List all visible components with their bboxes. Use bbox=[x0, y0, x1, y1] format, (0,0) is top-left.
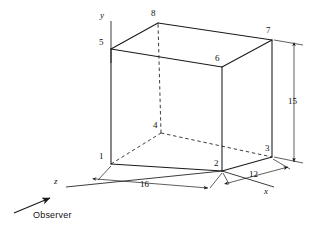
extension-line-16-left bbox=[98, 166, 111, 180]
hidden-edge-1-4 bbox=[111, 133, 161, 164]
edge-5-8 bbox=[111, 23, 158, 49]
dimension-label-depth: 12 bbox=[249, 170, 258, 179]
z-axis-label: z bbox=[54, 177, 58, 186]
edge-7-6 bbox=[222, 40, 272, 67]
vertex-label-3: 3 bbox=[265, 144, 270, 153]
vertex-label-8: 8 bbox=[151, 9, 156, 18]
vertex-label-4: 4 bbox=[153, 121, 158, 130]
vertex-label-6: 6 bbox=[215, 54, 220, 63]
vertex-label-1: 1 bbox=[99, 152, 104, 161]
vertex-label-7: 7 bbox=[266, 26, 271, 35]
dimension-label-height: 15 bbox=[288, 97, 297, 106]
visible-edges-group bbox=[111, 23, 272, 171]
extension-line-16-right bbox=[210, 173, 222, 188]
hidden-edges-group bbox=[111, 23, 272, 164]
figure-canvas bbox=[0, 0, 319, 243]
dimension-line-16 bbox=[96, 179, 208, 188]
dimension-label-width: 16 bbox=[140, 180, 149, 189]
x-axis-line bbox=[222, 171, 274, 187]
edge-1-2 bbox=[111, 164, 222, 171]
hidden-edge-4-8 bbox=[158, 23, 161, 133]
vertex-label-2: 2 bbox=[214, 159, 219, 168]
y-axis-label: y bbox=[100, 11, 104, 20]
edge-8-7 bbox=[158, 23, 272, 40]
observer-label: Observer bbox=[33, 211, 72, 220]
edge-6-5 bbox=[111, 49, 222, 67]
vertex-label-5: 5 bbox=[99, 38, 104, 47]
hidden-edge-4-3 bbox=[161, 133, 272, 157]
x-axis-label: x bbox=[264, 187, 268, 196]
extension-line-15-top bbox=[274, 40, 303, 45]
dimension-line-12 bbox=[228, 167, 288, 183]
edge-2-3 bbox=[222, 157, 272, 171]
extension-line-12-left bbox=[223, 173, 229, 184]
engineering-figure: y x z 1 2 3 4 5 6 7 8 16 12 15 Observer bbox=[0, 0, 319, 243]
axes-group bbox=[66, 21, 274, 187]
